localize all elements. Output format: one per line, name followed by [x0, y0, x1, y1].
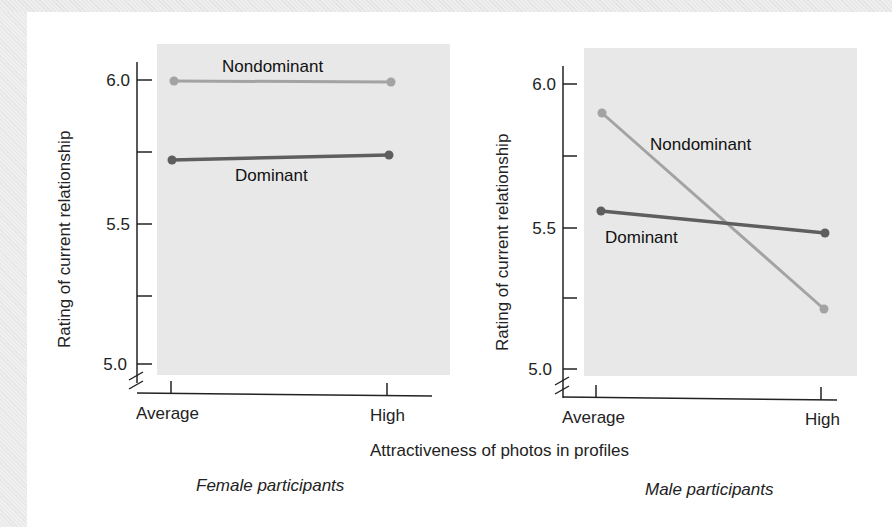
y-tick-label: 5.0: [103, 355, 127, 374]
y-axis-title: Rating of current relationship: [493, 134, 512, 351]
chart-female: 6.0 5.5 5.0 Average High Rating of curre…: [55, 44, 450, 495]
x-axis-line: [563, 397, 837, 400]
figure: 6.0 5.5 5.0 Average High Rating of curre…: [0, 0, 892, 527]
y-ticks: [563, 84, 577, 369]
data-point: [820, 305, 829, 314]
chart-caption-male: Male participants: [645, 480, 774, 499]
data-point: [168, 156, 177, 165]
series-label-dominant: Dominant: [235, 166, 308, 185]
y-tick-label: 6.0: [532, 75, 556, 94]
y-ticks: [137, 80, 152, 364]
x-axis-title: Attractiveness of photos in profiles: [370, 441, 629, 460]
y-axis-title: Rating of current relationship: [55, 131, 74, 348]
x-tick-label: High: [370, 406, 405, 425]
chart-caption-female: Female participants: [196, 476, 345, 495]
series-label-nondominant: Nondominant: [650, 135, 751, 154]
x-tick-label: Average: [136, 404, 199, 423]
data-point: [597, 207, 606, 216]
data-point: [821, 229, 830, 238]
y-tick-label: 5.0: [528, 360, 552, 379]
x-tick-label: High: [805, 410, 840, 429]
y-tick-label: 5.5: [106, 215, 130, 234]
data-point: [385, 151, 394, 160]
series-label-dominant: Dominant: [605, 228, 678, 247]
data-point: [170, 77, 179, 86]
y-tick-label: 6.0: [106, 71, 130, 90]
chart-male: 6.0 5.5 5.0 Average High Rating of curre…: [493, 48, 857, 499]
y-tick-label: 5.5: [532, 219, 556, 238]
axis-break-icon: [555, 377, 569, 394]
data-point: [387, 78, 396, 87]
x-tick-label: Average: [562, 408, 625, 427]
data-point: [598, 109, 607, 118]
axis-break-icon: [129, 372, 143, 389]
series-label-nondominant: Nondominant: [222, 57, 323, 76]
plot-background: [157, 44, 450, 375]
